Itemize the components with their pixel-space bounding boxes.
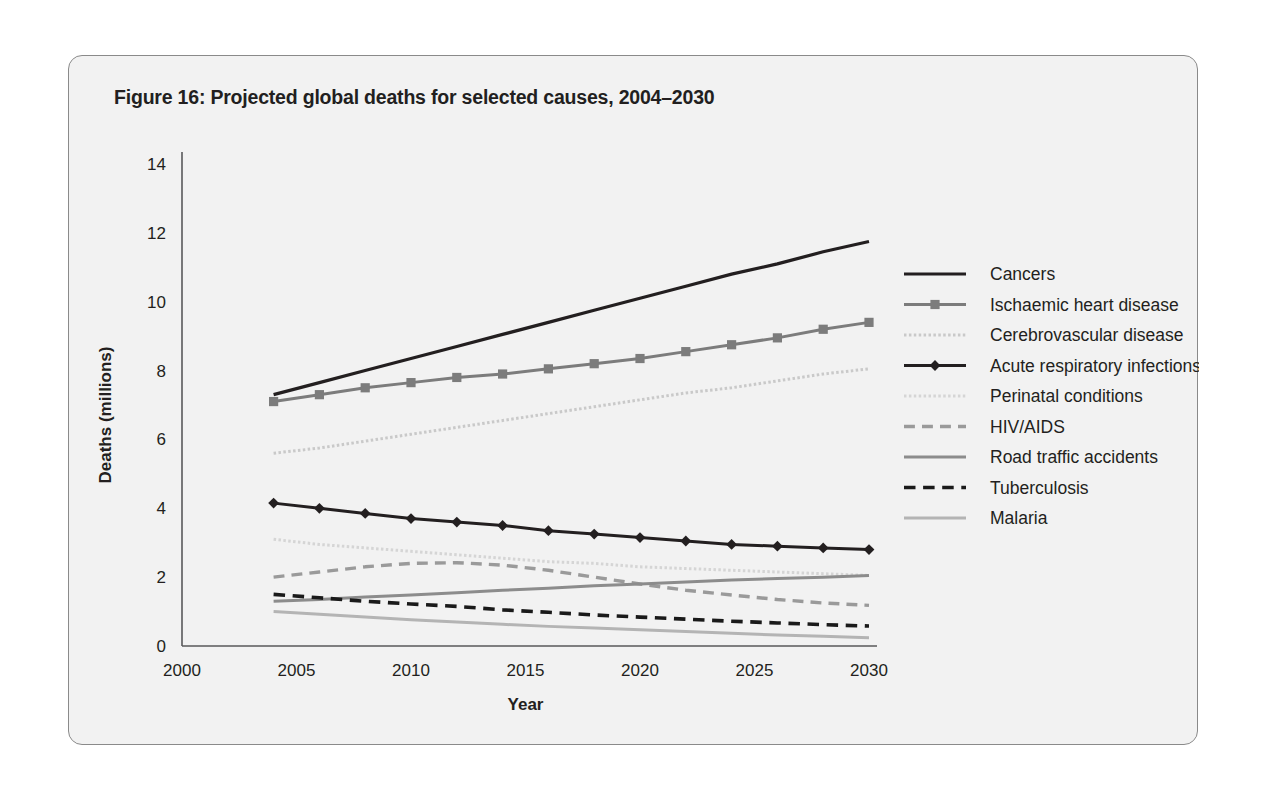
series-marker <box>497 520 508 531</box>
series-marker <box>635 532 646 543</box>
series-line-cerebrovascular-disease <box>274 369 869 453</box>
x-axis-tick-labels: 2000200520102015202020252030 <box>163 661 888 680</box>
y-axis-tick-labels: 02468101214 <box>147 155 166 656</box>
x-tick-2010: 2010 <box>392 661 430 680</box>
series-marker <box>589 529 600 540</box>
series-marker <box>772 541 783 552</box>
series-marker <box>269 397 278 406</box>
x-tick-2000: 2000 <box>163 661 201 680</box>
series-marker <box>452 373 461 382</box>
series-marker <box>315 390 324 399</box>
series-marker <box>268 498 279 509</box>
y-tick-4: 4 <box>157 499 166 518</box>
x-tick-2025: 2025 <box>736 661 774 680</box>
series-marker <box>451 517 462 528</box>
x-axis-title: Year <box>508 695 544 714</box>
y-tick-8: 8 <box>157 362 166 381</box>
series-line-road-traffic-accidents <box>274 575 869 601</box>
y-tick-14: 14 <box>147 155 166 174</box>
legend-label-perinatal-conditions: Perinatal conditions <box>990 386 1143 406</box>
chart-legend: CancersIschaemic heart diseaseCerebrovas… <box>904 264 1199 528</box>
y-axis-title: Deaths (millions) <box>96 347 115 484</box>
legend-label-tuberculosis: Tuberculosis <box>990 478 1089 498</box>
series-marker <box>864 318 873 327</box>
y-tick-2: 2 <box>157 568 166 587</box>
series-marker <box>544 364 553 373</box>
y-tick-6: 6 <box>157 430 166 449</box>
series-marker <box>680 536 691 547</box>
series-marker <box>818 542 829 553</box>
legend-label-malaria: Malaria <box>990 508 1048 528</box>
legend-label-road-traffic-accidents: Road traffic accidents <box>990 447 1158 467</box>
series-marker <box>726 539 737 550</box>
legend-label-ischaemic-heart-disease: Ischaemic heart disease <box>990 295 1179 315</box>
legend-marker <box>930 300 939 309</box>
y-tick-10: 10 <box>147 293 166 312</box>
series-marker <box>635 354 644 363</box>
legend-label-acute-respiratory-infections: Acute respiratory infections <box>990 356 1199 376</box>
legend-label-hiv-aids: HIV/AIDS <box>990 417 1065 437</box>
series-marker <box>681 347 690 356</box>
series-marker <box>864 544 875 555</box>
x-tick-2005: 2005 <box>278 661 316 680</box>
series-marker <box>498 369 507 378</box>
x-tick-2020: 2020 <box>621 661 659 680</box>
legend-label-cancers: Cancers <box>990 264 1055 284</box>
legend-label-cerebrovascular-disease: Cerebrovascular disease <box>990 325 1184 345</box>
series-marker <box>727 340 736 349</box>
y-tick-12: 12 <box>147 224 166 243</box>
series-marker <box>406 513 417 524</box>
y-tick-0: 0 <box>157 637 166 656</box>
series-line-acute-respiratory-infections <box>274 503 869 549</box>
x-tick-2030: 2030 <box>850 661 888 680</box>
line-chart: 02468101214 2000200520102015202020252030… <box>69 56 1199 746</box>
data-series-group <box>268 241 874 637</box>
series-marker <box>773 333 782 342</box>
x-tick-2015: 2015 <box>507 661 545 680</box>
chart-plot-area: 02468101214 2000200520102015202020252030… <box>69 56 1199 746</box>
series-marker <box>361 383 370 392</box>
figure-card: Figure 16: Projected global deaths for s… <box>68 55 1198 745</box>
legend-marker <box>930 360 941 371</box>
series-marker <box>314 503 325 514</box>
series-line-cancers <box>274 241 869 394</box>
series-marker <box>360 508 371 519</box>
series-marker <box>590 359 599 368</box>
series-line-hiv-aids <box>274 563 869 606</box>
series-marker <box>819 325 828 334</box>
series-marker <box>543 525 554 536</box>
series-marker <box>406 378 415 387</box>
